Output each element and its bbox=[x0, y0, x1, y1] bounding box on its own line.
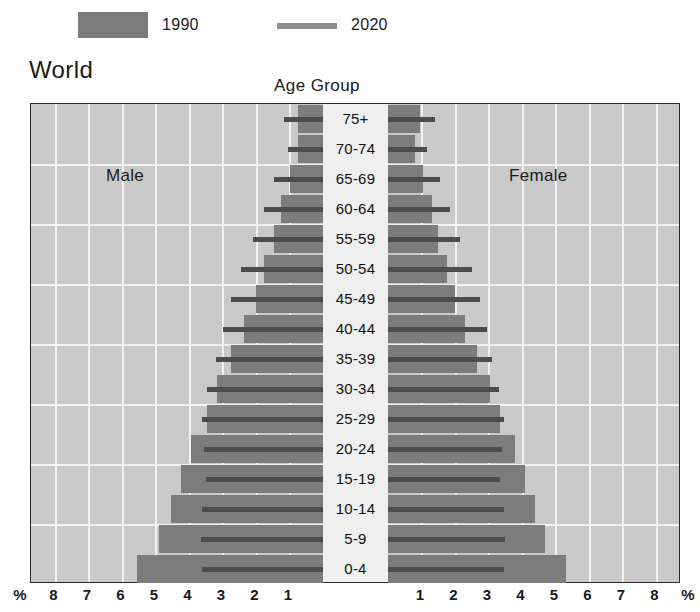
line-2020-female bbox=[388, 117, 435, 122]
line-2020-female bbox=[388, 447, 502, 452]
axis-tick-left-2: 2 bbox=[243, 586, 267, 603]
line-2020-female bbox=[388, 477, 500, 482]
line-2020-male bbox=[284, 117, 323, 122]
line-2020-male bbox=[223, 327, 324, 332]
plot-area: 75+70-7465-6960-6455-5950-5445-4940-4435… bbox=[30, 103, 680, 583]
age-group-label: 70-74 bbox=[323, 134, 388, 164]
line-2020-male bbox=[288, 147, 323, 152]
axis-tick-right-8: 8 bbox=[643, 586, 667, 603]
line-2020-female bbox=[388, 147, 427, 152]
line-2020-male bbox=[274, 177, 323, 182]
line-2020-female bbox=[388, 357, 492, 362]
axis-tick-left-4: 4 bbox=[176, 586, 200, 603]
axis-tick-right-6: 6 bbox=[576, 586, 600, 603]
line-2020-female bbox=[388, 327, 487, 332]
line-2020-female bbox=[388, 237, 460, 242]
line-2020-female bbox=[388, 507, 504, 512]
legend-label-2020: 2020 bbox=[351, 16, 388, 34]
age-group-label: 5-9 bbox=[323, 524, 388, 554]
axis-tick-right-7: 7 bbox=[609, 586, 633, 603]
age-group-label: 75+ bbox=[323, 104, 388, 134]
age-group-axis-title-text: Age Group bbox=[274, 76, 360, 95]
line-2020-male bbox=[216, 357, 323, 362]
x-axis: %8765432112345678% bbox=[0, 586, 700, 612]
line-2020-female bbox=[388, 567, 504, 572]
age-group-label: 30-34 bbox=[323, 374, 388, 404]
line-2020-male bbox=[206, 477, 323, 482]
line-2020-male bbox=[202, 507, 323, 512]
legend-label-1990: 1990 bbox=[162, 16, 199, 34]
line-2020-male bbox=[207, 387, 323, 392]
line-2020-male bbox=[241, 267, 323, 272]
axis-tick-left-1: 1 bbox=[276, 586, 300, 603]
age-label-column: 75+70-7465-6960-6455-5950-5445-4940-4435… bbox=[323, 104, 388, 582]
chart-legend: 1990 2020 bbox=[0, 0, 700, 50]
axis-unit-right: % bbox=[676, 586, 700, 603]
population-pyramid-chart: 1990 2020 World Age Group 75+70-7465-696… bbox=[0, 0, 700, 612]
line-2020-male bbox=[201, 537, 323, 542]
age-group-label: 0-4 bbox=[323, 554, 388, 584]
age-group-label: 20-24 bbox=[323, 434, 388, 464]
line-2020-male bbox=[204, 447, 323, 452]
legend-line-2020 bbox=[277, 23, 337, 29]
age-group-label: 55-59 bbox=[323, 224, 388, 254]
line-2020-male bbox=[231, 297, 323, 302]
line-2020-female bbox=[388, 537, 505, 542]
line-2020-male bbox=[264, 207, 323, 212]
axis-tick-right-1: 1 bbox=[408, 586, 432, 603]
age-group-label: 40-44 bbox=[323, 314, 388, 344]
age-group-label: 35-39 bbox=[323, 344, 388, 374]
age-group-label: 25-29 bbox=[323, 404, 388, 434]
axis-tick-left-3: 3 bbox=[209, 586, 233, 603]
age-group-label: 60-64 bbox=[323, 194, 388, 224]
age-group-axis-title: Age Group bbox=[0, 76, 700, 96]
line-2020-female bbox=[388, 207, 450, 212]
axis-tick-right-4: 4 bbox=[509, 586, 533, 603]
age-group-label: 10-14 bbox=[323, 494, 388, 524]
line-2020-female bbox=[388, 417, 504, 422]
line-2020-female bbox=[388, 297, 480, 302]
female-side-label: Female bbox=[509, 166, 568, 186]
line-2020-female bbox=[388, 387, 499, 392]
axis-tick-left-5: 5 bbox=[142, 586, 166, 603]
axis-tick-right-2: 2 bbox=[442, 586, 466, 603]
axis-tick-left-8: 8 bbox=[42, 586, 66, 603]
line-2020-male bbox=[202, 567, 323, 572]
axis-unit-left: % bbox=[8, 586, 32, 603]
age-group-label: 50-54 bbox=[323, 254, 388, 284]
axis-tick-left-7: 7 bbox=[75, 586, 99, 603]
age-group-label: 65-69 bbox=[323, 164, 388, 194]
axis-tick-right-3: 3 bbox=[475, 586, 499, 603]
line-2020-male bbox=[202, 417, 323, 422]
line-2020-female bbox=[388, 177, 440, 182]
line-2020-female bbox=[388, 267, 472, 272]
axis-tick-left-6: 6 bbox=[109, 586, 133, 603]
age-group-label: 45-49 bbox=[323, 284, 388, 314]
line-2020-male bbox=[253, 237, 323, 242]
axis-tick-right-5: 5 bbox=[542, 586, 566, 603]
male-side-label: Male bbox=[106, 166, 144, 186]
age-group-label: 15-19 bbox=[323, 464, 388, 494]
legend-swatch-1990 bbox=[78, 12, 148, 38]
